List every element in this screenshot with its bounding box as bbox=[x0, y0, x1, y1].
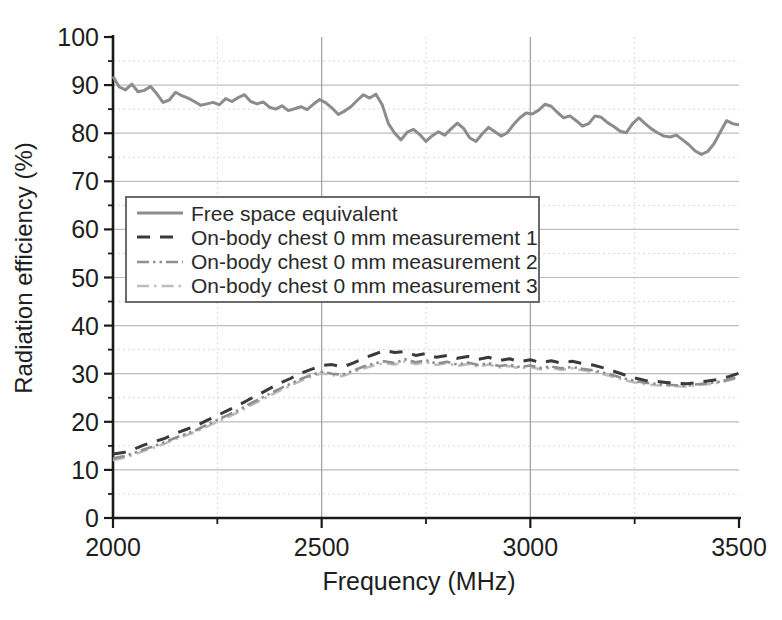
legend-label: On-body chest 0 mm measurement 2 bbox=[191, 251, 538, 272]
legend-item: On-body chest 0 mm measurement 3 bbox=[136, 275, 534, 296]
series-line-3 bbox=[113, 361, 739, 460]
radiation-efficiency-chart: 01020304050607080901002000250030003500 R… bbox=[0, 0, 782, 620]
legend-line-sample bbox=[136, 232, 184, 242]
y-tick-label: 100 bbox=[57, 23, 99, 51]
y-tick-label: 20 bbox=[71, 408, 99, 436]
y-tick-label: 50 bbox=[71, 264, 99, 292]
legend-line-sample bbox=[136, 257, 184, 267]
legend-line-sample bbox=[136, 208, 184, 218]
legend: Free space equivalent On-body chest 0 mm… bbox=[125, 196, 540, 303]
y-tick-label: 80 bbox=[71, 119, 99, 147]
legend-item: On-body chest 0 mm measurement 2 bbox=[136, 251, 534, 272]
x-tick-label: 2500 bbox=[294, 533, 350, 561]
x-tick-label: 3500 bbox=[711, 533, 767, 561]
y-tick-label: 60 bbox=[71, 215, 99, 243]
y-tick-label: 90 bbox=[71, 71, 99, 99]
plot-area: 01020304050607080901002000250030003500 bbox=[0, 0, 782, 620]
x-tick-label: 2000 bbox=[85, 533, 141, 561]
y-axis-title: Radiation efficiency (%) bbox=[10, 142, 38, 394]
y-tick-label: 10 bbox=[71, 456, 99, 484]
y-tick-label: 40 bbox=[71, 312, 99, 340]
legend-label: On-body chest 0 mm measurement 1 bbox=[191, 227, 538, 248]
y-tick-label: 0 bbox=[85, 504, 99, 532]
y-tick-label: 30 bbox=[71, 360, 99, 388]
legend-label: Free space equivalent bbox=[191, 203, 398, 224]
legend-label: On-body chest 0 mm measurement 3 bbox=[191, 275, 538, 296]
legend-item: On-body chest 0 mm measurement 1 bbox=[136, 227, 534, 248]
y-tick-label: 70 bbox=[71, 167, 99, 195]
legend-line-sample bbox=[136, 281, 184, 291]
legend-item: Free space equivalent bbox=[136, 203, 534, 224]
x-axis-title: Frequency (MHz) bbox=[322, 567, 515, 596]
x-tick-label: 3000 bbox=[503, 533, 559, 561]
